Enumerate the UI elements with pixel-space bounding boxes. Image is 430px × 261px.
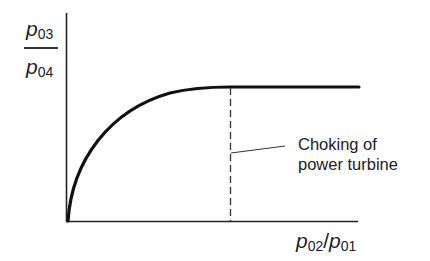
y-label-fraction-bar [24,47,58,49]
diagram-canvas [0,0,430,261]
annotation-line-2: power turbine [298,154,398,174]
annotation-leader-line [231,146,285,153]
choking-annotation: Choking of power turbine [298,134,398,174]
x-axis-label: p02/p01 [296,229,356,253]
y-label-numerator: p03 [26,17,53,41]
y-label-denominator: p04 [26,55,53,79]
annotation-line-1: Choking of [298,134,398,154]
